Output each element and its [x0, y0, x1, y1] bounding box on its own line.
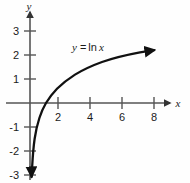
curve-label-x: x — [98, 41, 104, 53]
graph-figure: 2 4 6 8 x 3 2 1 -1 -2 -3 y — [0, 0, 190, 183]
x-tick-label-6: 6 — [119, 111, 125, 123]
y-tick-label-neg3: -3 — [9, 169, 19, 181]
y-tick-label-3: 3 — [13, 25, 19, 37]
curve-label-y: y — [71, 41, 77, 53]
x-axis: 2 4 6 8 x — [6, 97, 181, 123]
curve-label-equals: = — [80, 41, 86, 53]
x-tick-label-4: 4 — [87, 111, 93, 123]
y-axis-label: y — [26, 0, 32, 12]
curve-label-ln: ln — [88, 41, 97, 53]
x-tick-label-2: 2 — [55, 111, 61, 123]
y-tick-label-2: 2 — [13, 49, 19, 61]
curve-equation-label: y=lnx — [71, 41, 104, 53]
y-tick-label-neg1: -1 — [9, 121, 19, 133]
y-tick-label-neg2: -2 — [9, 145, 19, 157]
x-tick-label-8: 8 — [151, 111, 157, 123]
y-tick-label-1: 1 — [13, 73, 19, 85]
x-axis-label: x — [175, 97, 181, 109]
logarithm-graph-svg: 2 4 6 8 x 3 2 1 -1 -2 -3 y — [0, 0, 190, 183]
